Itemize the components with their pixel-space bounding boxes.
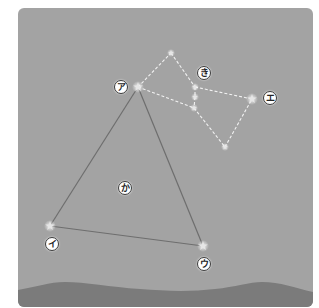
- star-u-icon: [197, 240, 209, 252]
- line-a-i: [50, 87, 138, 226]
- label-u: ウ: [197, 257, 211, 271]
- star-top-icon: [167, 49, 175, 57]
- star-i-icon: [44, 220, 56, 232]
- stars: [44, 49, 258, 252]
- dash-mid1-e: [195, 87, 252, 99]
- label-a: ア: [114, 80, 128, 94]
- diagram-canvas: [0, 0, 319, 308]
- star-e-icon: [246, 93, 258, 105]
- dash-a-top: [138, 53, 171, 87]
- label-ki: き: [197, 66, 211, 80]
- star-mid3-icon: [190, 104, 198, 112]
- label-ka: か: [118, 181, 132, 195]
- dash-a-mid3: [138, 87, 194, 108]
- star-a-icon: [132, 81, 144, 93]
- label-e: エ: [263, 91, 277, 105]
- dash-top-mid1: [171, 53, 195, 87]
- star-mid1-icon: [191, 83, 199, 91]
- label-i: イ: [45, 237, 59, 251]
- star-mid2-icon: [191, 93, 199, 101]
- dash-mid3-bottom: [194, 108, 225, 147]
- ground-hills: [18, 282, 313, 308]
- triangle-a-i-u: [50, 87, 203, 246]
- line-i-u: [50, 226, 203, 246]
- dash-bottom-e: [225, 99, 252, 147]
- star-bottom-icon: [221, 143, 229, 151]
- constellation-figure: ア イ ウ エ か き: [0, 0, 319, 308]
